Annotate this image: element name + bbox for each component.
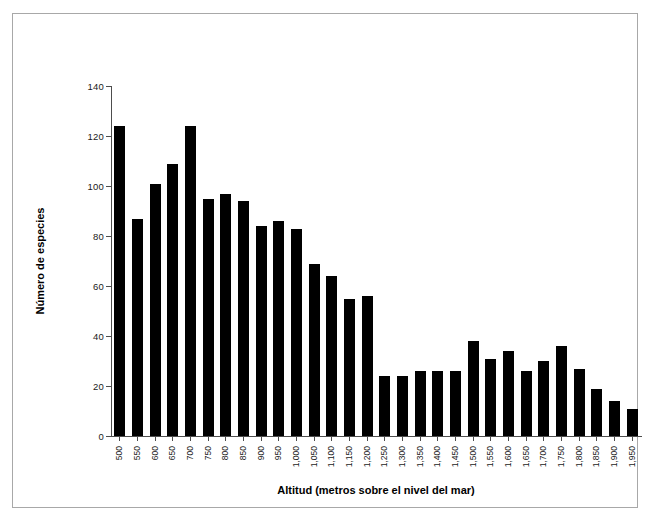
bar-column[interactable]: 750 [203,86,214,436]
x-axis-tick-label: 1,200 [362,446,372,467]
x-axis-tick [561,437,562,441]
bar[interactable] [326,276,337,436]
bar-column[interactable]: 1,550 [485,86,496,436]
bar-column[interactable]: 1,650 [521,86,532,436]
bar[interactable] [450,371,461,436]
bar-column[interactable]: 1,250 [379,86,390,436]
bar-column[interactable]: 1,350 [415,86,426,436]
y-axis-tick [106,236,111,237]
bar[interactable] [220,194,231,437]
x-axis-tick-label: 700 [185,446,195,460]
bar-column[interactable]: 850 [238,86,249,436]
x-axis-tick-label: 500 [114,446,124,460]
bar-column[interactable]: 1,050 [309,86,320,436]
x-axis-tick [473,437,474,441]
bar[interactable] [591,389,602,437]
bar-column[interactable]: 1,750 [556,86,567,436]
bar[interactable] [485,359,496,437]
bar[interactable] [415,371,426,436]
bar-column[interactable]: 1,450 [450,86,461,436]
bar[interactable] [538,361,549,436]
bar[interactable] [397,376,408,436]
bar[interactable] [273,221,284,436]
bar-column[interactable]: 550 [132,86,143,436]
y-axis-tick-label: 120 [88,131,104,142]
x-axis-tick-label: 650 [167,446,177,460]
x-axis-tick-label: 900 [256,446,266,460]
bar[interactable] [291,229,302,437]
x-axis-tick [119,437,120,441]
bar-column[interactable]: 1,500 [468,86,479,436]
x-axis-tick [437,437,438,441]
x-axis-tick [632,437,633,441]
bar[interactable] [521,371,532,436]
bar[interactable] [256,226,267,436]
x-axis-tick [208,437,209,441]
bar-column[interactable]: 1,100 [326,86,337,436]
bar-column[interactable]: 1,950 [627,86,638,436]
x-axis-tick-label: 1,900 [609,446,619,467]
x-axis-tick-label: 1,450 [450,446,460,467]
bar-column[interactable]: 1,200 [362,86,373,436]
bar-column[interactable]: 950 [273,86,284,436]
x-axis-tick-label: 1,500 [468,446,478,467]
bar-column[interactable]: 600 [150,86,161,436]
bar[interactable] [609,401,620,436]
y-axis-tick [106,286,111,287]
x-axis-tick [278,437,279,441]
bar[interactable] [238,201,249,436]
bar-column[interactable]: 1,300 [397,86,408,436]
bar-column[interactable]: 1,000 [291,86,302,436]
y-axis-tick-label: 0 [99,431,104,442]
bar[interactable] [503,351,514,436]
bar[interactable] [132,219,143,437]
x-axis-tick-label: 1,150 [344,446,354,467]
bar[interactable] [556,346,567,436]
y-axis-tick [106,186,111,187]
bar-column[interactable]: 700 [185,86,196,436]
x-axis-tick [261,437,262,441]
bar-column[interactable]: 500 [114,86,125,436]
x-axis-tick-label: 1,050 [309,446,319,467]
y-axis-tick [106,336,111,337]
y-axis-tick-label: 40 [93,331,104,342]
x-axis-tick-label: 1,600 [503,446,513,467]
bar-column[interactable]: 1,600 [503,86,514,436]
bar-column[interactable]: 900 [256,86,267,436]
bar-column[interactable]: 1,700 [538,86,549,436]
bar[interactable] [468,341,479,436]
bar-column[interactable]: 1,400 [432,86,443,436]
bar-column[interactable]: 1,900 [609,86,620,436]
bar[interactable] [574,369,585,437]
bar[interactable] [150,184,161,437]
bar[interactable] [379,376,390,436]
x-axis-tick [137,437,138,441]
bar[interactable] [362,296,373,436]
x-axis-tick-label: 1,700 [538,446,548,467]
y-axis-tick [106,386,111,387]
x-axis-tick-label: 850 [238,446,248,460]
x-axis-tick [349,437,350,441]
bar[interactable] [432,371,443,436]
bar-column[interactable]: 1,150 [344,86,355,436]
figure-frame: Número de especies Altitud (metros sobre… [12,13,638,508]
y-axis-tick-label: 140 [88,81,104,92]
bar[interactable] [114,126,125,436]
bar[interactable] [344,299,355,437]
bar[interactable] [167,164,178,437]
x-axis-tick [490,437,491,441]
bar-column[interactable]: 1,800 [574,86,585,436]
bar[interactable] [627,409,638,437]
bar-column[interactable]: 800 [220,86,231,436]
y-axis-tick [106,436,111,437]
x-axis-tick-label: 600 [150,446,160,460]
y-axis-tick-label: 60 [93,281,104,292]
bar[interactable] [203,199,214,437]
bar[interactable] [185,126,196,436]
bar[interactable] [309,264,320,437]
x-axis-tick-label: 800 [220,446,230,460]
bar-column[interactable]: 650 [167,86,178,436]
y-axis-tick-label: 80 [93,231,104,242]
bar-column[interactable]: 1,850 [591,86,602,436]
x-axis-tick [367,437,368,441]
